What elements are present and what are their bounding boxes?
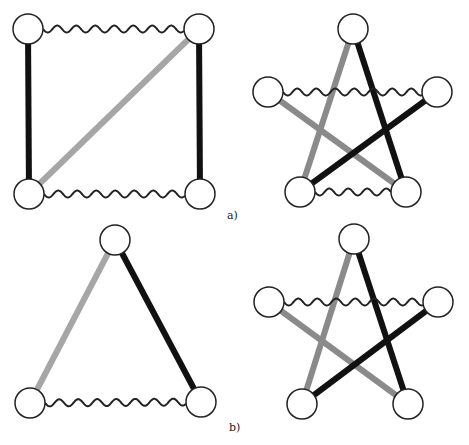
graph-node [186,387,216,417]
labels-layer: a) b) [227,209,240,434]
graph-node [253,77,283,107]
wavy-edge [44,191,185,198]
graph-diagram: a) b) [0,0,469,445]
graph-node [393,389,423,419]
panel-label-b: b) [229,421,240,434]
star-graph-a [268,29,437,195]
graph-node [185,179,215,209]
midgray-edge [300,29,353,192]
graph-node [254,287,284,317]
graph-node [338,14,368,44]
midgray-edge [268,92,406,192]
panel-label-a: a) [227,209,238,222]
graph-node [423,287,453,317]
gray-edge [29,29,199,194]
graph-node [100,225,130,255]
graph-node [391,177,421,207]
wavy-edge [283,89,422,96]
graph-node [14,179,44,209]
wavy-edge [45,399,186,407]
wavy-edge [315,189,391,196]
graph-node [285,177,315,207]
graph-node [15,388,45,418]
wavy-edge [43,26,184,33]
graph-node [13,14,43,44]
black-edge [353,29,406,192]
wavy-edge [284,299,423,306]
gray-edge [30,240,115,403]
black-edge [302,302,438,404]
black-edge [28,29,29,194]
midgray-edge [302,239,354,404]
square-graph [28,26,200,198]
black-edge [199,29,200,194]
star-graph-b [269,239,438,404]
triangle-graph [30,240,201,406]
midgray-edge [269,302,408,404]
graph-node [184,14,214,44]
graph-node [339,224,369,254]
graph-node [287,389,317,419]
black-edge [115,240,201,402]
black-edge [354,239,408,404]
black-edge [300,92,437,192]
graph-node [422,77,452,107]
